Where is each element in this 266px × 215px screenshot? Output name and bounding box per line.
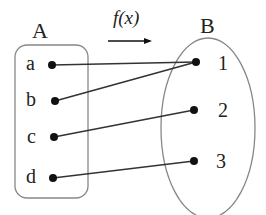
set-b-boundary [161, 38, 255, 215]
function-label: f(x) [113, 7, 139, 29]
dot-a [48, 61, 56, 69]
element-d: d [26, 165, 36, 187]
set-a: A a b c d [15, 18, 88, 198]
mapping-b-to-1 [55, 62, 196, 101]
element-2: 2 [218, 99, 228, 121]
mapping-c-to-2 [54, 110, 194, 137]
mapping-lines [52, 62, 196, 178]
function-indicator: f(x) [108, 7, 150, 41]
element-b: b [26, 88, 36, 110]
mapping-d-to-3 [53, 161, 194, 178]
dot-c [50, 133, 58, 141]
element-3: 3 [216, 150, 226, 172]
dot-2 [190, 106, 198, 114]
dot-b [51, 97, 59, 105]
set-a-label: A [32, 18, 48, 43]
element-c: c [27, 125, 36, 147]
set-b-label: B [200, 13, 215, 38]
dot-1 [192, 58, 200, 66]
function-mapping-diagram: A a b c d B 1 2 3 f(x) [0, 0, 266, 215]
element-1: 1 [218, 52, 228, 74]
element-a: a [26, 52, 35, 74]
dot-d [49, 174, 57, 182]
dot-3 [190, 157, 198, 165]
